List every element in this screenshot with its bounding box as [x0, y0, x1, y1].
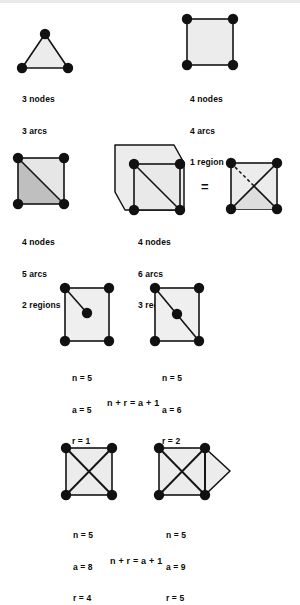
- caption-line-a: a = 5: [72, 405, 92, 416]
- figure-square-diagonal-midnode: [146, 279, 208, 351]
- figure-cube-projection: [107, 138, 193, 220]
- caption-line-nodes: 3 nodes: [22, 94, 56, 105]
- formula-row4: n + r = a + 1: [110, 556, 162, 566]
- figure-square-diagonal: [9, 149, 77, 215]
- caption-square-x-plus-triangle: n = 5 a = 9 r = 5: [166, 509, 186, 605]
- equals-sign: =: [201, 179, 209, 194]
- caption-line-regions: 2 regions: [22, 300, 61, 311]
- caption-square-diagonal: 4 nodes 5 arcs 2 regions: [22, 216, 61, 321]
- figure-square-x-plus-triangle: [150, 439, 246, 505]
- caption-line-arcs: 4 arcs: [190, 126, 224, 137]
- caption-line-regions: 1 region: [190, 157, 224, 168]
- figure-square: [178, 10, 246, 76]
- caption-line-r: r = 5: [166, 593, 186, 604]
- top-edge-divider: [0, 0, 300, 3]
- caption-line-arcs: 5 arcs: [22, 269, 61, 280]
- caption-line-n: n = 5: [72, 373, 92, 384]
- caption-line-a: a = 8: [73, 562, 93, 573]
- caption-line-a: a = 6: [162, 405, 182, 416]
- caption-line-arcs: 3 arcs: [22, 126, 56, 137]
- figure-square-spur-node: [56, 279, 118, 351]
- caption-line-nodes: 4 nodes: [138, 237, 177, 248]
- caption-line-nodes: 4 nodes: [22, 237, 61, 248]
- caption-line-n: n = 5: [73, 530, 93, 541]
- formula-row3: n + r = a + 1: [107, 398, 159, 408]
- caption-line-n: n = 5: [166, 530, 186, 541]
- caption-line-arcs: 6 arcs: [138, 269, 177, 280]
- caption-line-n: n = 5: [162, 373, 182, 384]
- figure-square-dashed-diagonals: [222, 154, 288, 220]
- figure-square-x-crossing: [57, 439, 121, 505]
- caption-line-a: a = 9: [166, 562, 186, 573]
- caption-square: 4 nodes 4 arcs 1 region: [190, 73, 224, 178]
- caption-line-r: r = 4: [73, 593, 93, 604]
- caption-square-x-crossing: n = 5 a = 8 r = 4: [73, 509, 93, 605]
- figure-triangle: [8, 22, 84, 78]
- caption-line-nodes: 4 nodes: [190, 94, 224, 105]
